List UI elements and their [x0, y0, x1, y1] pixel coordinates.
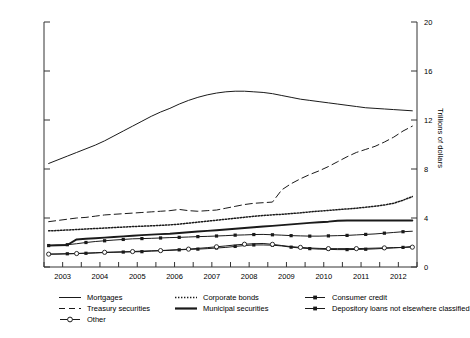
- legend-swatch-solid-thin-line-icon: [58, 292, 82, 303]
- plot-svg: [44, 22, 417, 267]
- legend-item-consumer-credit[interactable]: Consumer credit: [303, 292, 387, 303]
- legend-label: Depository loans not elsewhere classifie…: [332, 303, 470, 314]
- legend-swatch-solid-thick-line-icon: [174, 303, 198, 314]
- y-tick-4: 4: [424, 214, 428, 223]
- y-tick-16: 16: [424, 67, 432, 76]
- legend-swatch-square-marker-line-icon: [303, 292, 327, 303]
- legend-item-other[interactable]: Other: [58, 314, 174, 325]
- x-tick-2011: 2011: [353, 272, 369, 281]
- legend-item-municipal-securities[interactable]: Municipal securities: [174, 303, 303, 314]
- x-tick-2007: 2007: [204, 272, 221, 281]
- legend-label: Consumer credit: [332, 292, 387, 303]
- legend-row: MortgagesCorporate bondsConsumer credit: [58, 292, 458, 303]
- x-tick-2004: 2004: [92, 272, 109, 281]
- x-tick-2012: 2012: [390, 272, 407, 281]
- legend-item-depository-loans-not-elsewhere-classified[interactable]: Depository loans not elsewhere classifie…: [303, 303, 470, 314]
- legend-swatch-dotted-line-icon: [174, 292, 198, 303]
- legend-swatch-circle-marker-line-icon: [58, 314, 82, 325]
- y-tick-0: 0: [424, 263, 428, 272]
- axis-spines: [44, 22, 417, 267]
- legend-swatch-square-marker-line-icon: [303, 303, 327, 314]
- legend-item-treasury-securities[interactable]: Treasury securities: [58, 303, 174, 314]
- legend-item-corporate-bonds[interactable]: Corporate bonds: [174, 292, 303, 303]
- axis-ticks: [44, 22, 417, 267]
- series-mortgages: [49, 91, 413, 163]
- x-tick-2009: 2009: [278, 272, 295, 281]
- x-tick-2003: 2003: [54, 272, 71, 281]
- y-tick-12: 12: [424, 116, 432, 125]
- y-tick-20: 20: [424, 18, 432, 27]
- legend-label: Municipal securities: [203, 303, 268, 314]
- y-tick-8: 8: [424, 165, 428, 174]
- chart-figure: Quarterly Trillions of dollars 200320042…: [0, 0, 470, 338]
- legend-swatch-dashed-line-icon: [58, 303, 82, 314]
- chart-legend: MortgagesCorporate bondsConsumer creditT…: [58, 292, 458, 325]
- legend-item-mortgages[interactable]: Mortgages: [58, 292, 174, 303]
- x-tick-2010: 2010: [315, 272, 332, 281]
- legend-label: Corporate bonds: [203, 292, 259, 303]
- legend-label: Other: [87, 314, 106, 325]
- series-layer: [47, 91, 415, 256]
- legend-row: Treasury securitiesMunicipal securitiesD…: [58, 303, 458, 314]
- x-tick-2006: 2006: [166, 272, 183, 281]
- y-axis-right-title: Trillions of dollars: [436, 108, 445, 168]
- x-tick-2005: 2005: [129, 272, 146, 281]
- plot-area: [44, 22, 417, 267]
- legend-label: Mortgages: [87, 292, 122, 303]
- x-tick-2008: 2008: [241, 272, 258, 281]
- legend-label: Treasury securities: [87, 303, 150, 314]
- series-corporate-bonds: [49, 197, 413, 231]
- legend-row: Other: [58, 314, 458, 325]
